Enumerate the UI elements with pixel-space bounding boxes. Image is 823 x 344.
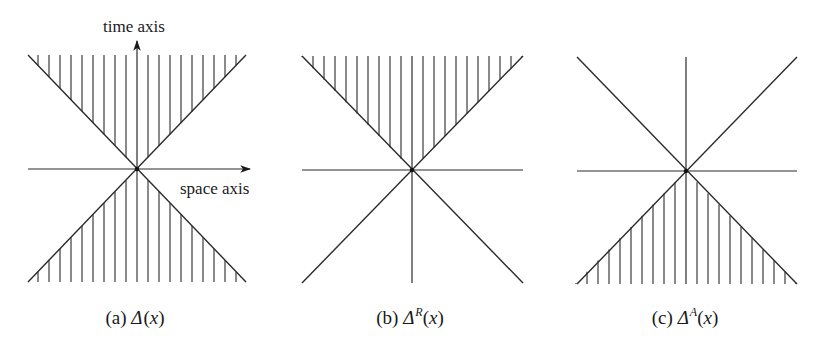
caption-superscript-a: A: [690, 305, 697, 319]
space-axis-label: space axis: [180, 180, 249, 197]
close-paren: ): [437, 307, 443, 328]
close-paren: ): [712, 307, 718, 328]
delta-symbol: Δ: [403, 307, 414, 328]
panel-a-pauli-jordan-function: [28, 41, 250, 282]
caption-panel-c: (c) ΔA(x): [652, 308, 718, 327]
caption-argument: x: [150, 307, 158, 328]
origin-point: [410, 168, 414, 172]
close-paren: ): [158, 307, 164, 328]
caption-superscript-r: R: [415, 305, 422, 319]
origin-point: [135, 167, 139, 171]
caption-panel-a: (a) Δ(x): [105, 308, 164, 327]
light-cone-diagram: [0, 0, 823, 344]
panel-b-retarded-function: [302, 56, 523, 283]
delta-symbol: Δ: [678, 307, 689, 328]
origin-point: [684, 169, 688, 173]
caption-prefix: (c): [652, 307, 678, 328]
caption-prefix: (a): [105, 307, 131, 328]
caption-prefix: (b): [376, 307, 403, 328]
time-axis-label: time axis: [103, 18, 165, 35]
delta-symbol: Δ: [131, 307, 142, 328]
panel-c-advanced-function: [576, 57, 797, 284]
caption-argument: x: [429, 307, 437, 328]
caption-panel-b: (b) ΔR(x): [376, 308, 444, 327]
caption-argument: x: [703, 307, 711, 328]
